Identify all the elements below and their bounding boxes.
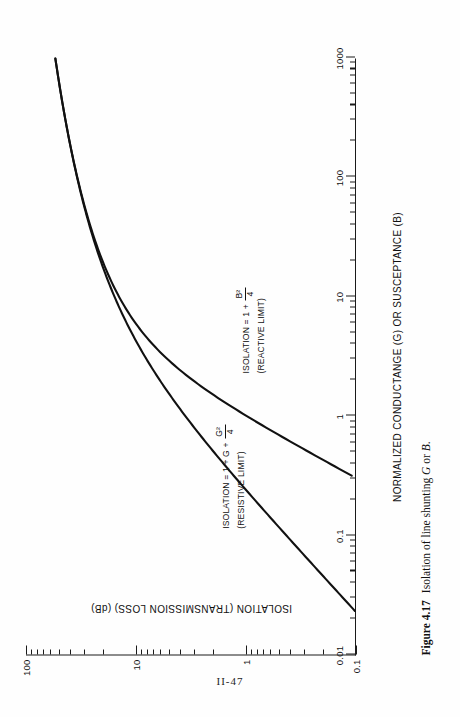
x-tick-label: 10 — [334, 291, 345, 302]
curve-reactive-limit — [55, 58, 351, 475]
rotated-figure-container: 0.010.11101001000 0.1110100 NORMALIZED C… — [0, 0, 460, 717]
x-tick-label: 1 — [334, 413, 345, 418]
caption-symbol-g: G — [420, 466, 432, 474]
caption-text-pre: Isolation of line shunting — [420, 474, 432, 592]
reactive-formula-text: ISOLATION = 1 + — [241, 301, 251, 373]
caption-text-mid: or — [420, 451, 432, 466]
resistive-limit-label: (RESISTIVE LIMIT) — [236, 423, 248, 528]
resistive-formula: ISOLATION = 1 + G + G²4 — [215, 423, 235, 528]
reactive-limit-annotation: ISOLATION = 1 + B²4 (REACTIVE LIMIT) — [235, 286, 267, 373]
resistive-formula-text: ISOLATION = 1 + G + — [221, 439, 231, 528]
x-tick-major — [346, 56, 355, 57]
resistive-fraction: G²4 — [215, 424, 235, 438]
page-folio: II-47 — [0, 675, 460, 687]
reactive-fraction: B²4 — [235, 287, 255, 300]
reactive-limit-label: (REACTIVE LIMIT) — [256, 286, 268, 373]
resistive-limit-annotation: ISOLATION = 1 + G + G²4 (RESISTIVE LIMIT… — [215, 423, 247, 528]
x-axis-title: NORMALIZED CONDUCTANGE (G) OR SUSCEPTANC… — [392, 58, 403, 655]
resistive-fraction-denominator: 4 — [226, 424, 236, 438]
figure-caption: Figure 4.17Isolation of line shunting G … — [420, 15, 432, 655]
caption-symbol-b: B — [420, 444, 432, 451]
y-axis-title-text: ISOLATION (TRANSMISSION LOSS) (dB) — [90, 603, 291, 614]
y-tick-major — [356, 645, 357, 654]
figure-caption-number: Figure 4.17 — [420, 600, 432, 655]
caption-text-post: . — [420, 441, 432, 444]
x-tick-label: 100 — [334, 169, 345, 185]
book-page: 0.010.11101001000 0.1110100 NORMALIZED C… — [0, 0, 460, 717]
reactive-fraction-denominator: 4 — [246, 287, 256, 300]
figure-caption-text: Isolation of line shunting G or B. — [420, 441, 432, 593]
x-tick-label: 1000 — [334, 47, 345, 69]
reactive-formula: ISOLATION = 1 + B²4 — [235, 286, 255, 373]
figure-4-17: 0.010.11101001000 0.1110100 NORMALIZED C… — [0, 0, 460, 717]
